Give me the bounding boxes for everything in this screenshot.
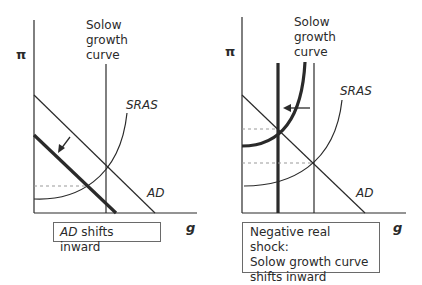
- right-ad-line: [242, 95, 365, 213]
- right-solow-label-line2: growth: [294, 30, 336, 45]
- left-g-axis-label: g: [186, 220, 195, 235]
- right-solow-label-line3: curve: [294, 45, 328, 60]
- right-caption-box: Negative real shock: Solow growth curve …: [242, 222, 380, 273]
- left-solow-label-line3: curve: [86, 48, 120, 63]
- left-solow-label-line2: growth: [86, 33, 128, 48]
- right-pi-axis-label: π: [225, 44, 235, 59]
- right-solow-label-line1: Solow: [294, 15, 329, 30]
- left-ad-shifted: [34, 135, 116, 213]
- right-sras-label: SRAS: [340, 84, 372, 99]
- right-caption-line2: Solow growth curve: [250, 255, 372, 270]
- right-g-axis-label: g: [393, 220, 402, 235]
- left-caption-italic: AD: [60, 225, 77, 239]
- left-sras-label: SRAS: [126, 98, 158, 113]
- left-ad-label: AD: [147, 186, 164, 201]
- right-arrow-head: [283, 104, 291, 112]
- left-caption-box: AD shifts inward: [53, 222, 161, 242]
- right-caption-line1: Negative real shock:: [250, 225, 372, 255]
- right-caption-line3: shifts inward: [250, 270, 372, 285]
- left-pi-axis-label: π: [16, 47, 26, 62]
- left-solow-label-line1: Solow: [86, 18, 121, 33]
- right-ad-label: AD: [356, 186, 373, 201]
